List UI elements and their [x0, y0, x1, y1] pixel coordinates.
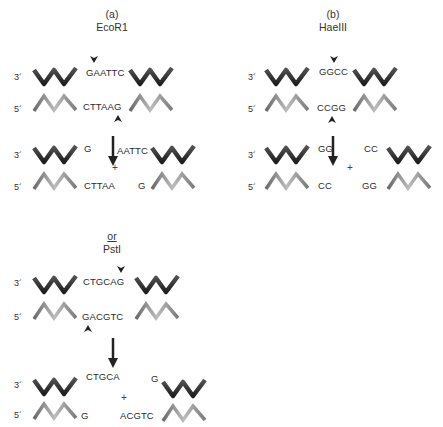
panel-b-enzyme: HaeIII	[293, 21, 373, 33]
bottom-strand-left	[32, 400, 82, 422]
top-left-overhang: GG	[318, 143, 333, 154]
top-right-overhang: G	[151, 373, 159, 384]
top-strand-left	[264, 142, 314, 166]
top-strand-right	[352, 64, 402, 88]
top-strand-right	[386, 142, 436, 166]
bottom-strand-right	[161, 402, 211, 424]
panel-a-label: (a)	[72, 8, 152, 20]
five-prime-label: 5´	[248, 104, 256, 114]
cut-site-bottom-marker-icon	[114, 114, 122, 122]
bottom-left-overhang: G	[81, 410, 89, 421]
bottom-strand-right	[128, 92, 178, 114]
alt-enzyme-label: PstI	[72, 243, 152, 255]
five-prime-label: 5´	[14, 182, 22, 192]
top-strand-left	[32, 272, 82, 296]
bottom-right-overhang: G	[138, 180, 146, 191]
top-right-overhang: AATTC	[117, 145, 148, 156]
cut-site-top-marker-icon	[90, 56, 98, 64]
bottom-sequence: GACGTC	[82, 311, 123, 322]
bottom-strand-left	[32, 300, 82, 322]
top-left-overhang: CTGCA	[86, 371, 120, 382]
down-arrow-icon	[108, 338, 118, 370]
panel-a-enzyme: EcoR1	[72, 21, 152, 33]
cut-site-bottom-marker-icon	[328, 115, 336, 123]
five-prime-label: 5´	[14, 312, 22, 322]
cut-site-top-marker-icon	[117, 266, 125, 274]
five-prime-label: 5´	[14, 410, 22, 420]
plus-sign: +	[347, 162, 353, 173]
bottom-strand-right	[352, 92, 402, 114]
top-strand-left	[32, 142, 82, 166]
bottom-strand-left	[32, 92, 82, 114]
three-prime-label: 3´	[14, 72, 22, 82]
panel-b-label: (b)	[293, 8, 373, 20]
five-prime-label: 5´	[14, 104, 22, 114]
bottom-right-overhang: GG	[362, 180, 377, 191]
plus-sign: +	[112, 162, 118, 173]
bottom-strand-left	[264, 92, 314, 114]
top-strand-left	[32, 64, 82, 88]
top-sequence: GAATTC	[86, 67, 124, 78]
bottom-right-overhang: ACGTC	[120, 410, 154, 421]
bottom-strand-left	[264, 170, 314, 192]
cut-site-bottom-marker-icon	[84, 324, 92, 332]
three-prime-label: 3´	[248, 150, 256, 160]
five-prime-label: 5´	[248, 182, 256, 192]
top-sequence: GGCC	[319, 66, 348, 77]
three-prime-label: 3´	[14, 150, 22, 160]
bottom-strand-right	[134, 300, 184, 322]
top-strand-right	[150, 142, 200, 166]
top-left-overhang: G	[84, 143, 92, 154]
plus-sign: +	[121, 392, 127, 403]
bottom-strand-left	[32, 170, 82, 192]
bottom-strand-right	[386, 170, 436, 192]
top-sequence: CTGCAG	[83, 276, 124, 287]
bottom-left-overhang: CC	[318, 180, 332, 191]
top-strand-left	[32, 374, 82, 398]
top-strand-right	[161, 376, 211, 400]
bottom-sequence: CTTAAG	[83, 101, 121, 112]
bottom-sequence: CCGG	[317, 102, 346, 113]
top-strand-right	[134, 272, 184, 296]
three-prime-label: 3´	[14, 278, 22, 288]
bottom-strand-right	[150, 170, 200, 192]
top-right-overhang: CC	[364, 143, 378, 154]
top-strand-left	[264, 64, 314, 88]
three-prime-label: 3´	[248, 72, 256, 82]
or-conjunction: or	[72, 230, 152, 242]
three-prime-label: 3´	[14, 380, 22, 390]
cut-site-top-marker-icon	[330, 56, 338, 64]
top-strand-right	[128, 64, 178, 88]
bottom-left-overhang: CTTAA	[84, 180, 115, 191]
